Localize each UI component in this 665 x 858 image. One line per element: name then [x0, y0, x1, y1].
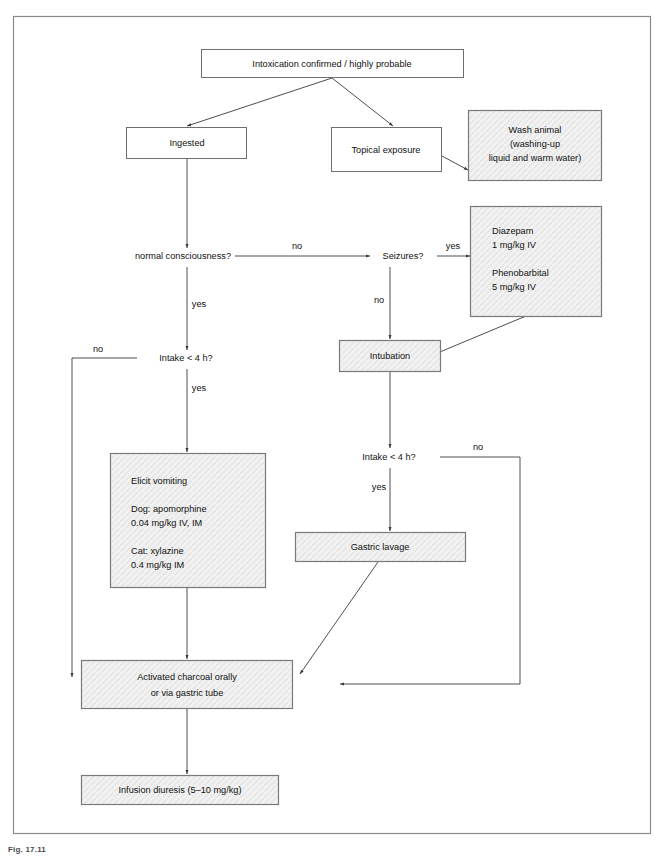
node-activated-charcoal[interactable]: Activated charcoal orally or via gastric…: [82, 661, 293, 709]
node-diazepam-line-1: Diazepam: [492, 226, 534, 236]
edge-label-intake-left-yes: yes: [192, 383, 207, 393]
flowchart-figure: Intoxication confirmed / highly probable…: [0, 0, 665, 858]
edge-label-consciousness-yes: yes: [192, 299, 207, 309]
node-ingested-label: Ingested: [169, 138, 204, 148]
node-elicit-vomiting[interactable]: Elicit vomiting Dog: apomorphine 0.04 mg…: [111, 454, 266, 588]
node-topical-exposure[interactable]: Topical exposure: [332, 128, 442, 172]
node-gastric-lavage-label: Gastric lavage: [351, 542, 410, 552]
edge-label-seizures-no: no: [374, 295, 384, 305]
node-diazepam-line-2: 1 mg/kg IV: [492, 240, 537, 250]
connector-intake-right-no-to-charcoal: [340, 457, 520, 684]
node-activated-charcoal-box: [82, 661, 293, 709]
edge-label-consciousness-no: no: [292, 241, 302, 251]
decision-normal-consciousness[interactable]: normal consciousness?: [135, 251, 231, 261]
edge-label-intake-left-no: no: [93, 344, 103, 354]
node-topical-exposure-label: Topical exposure: [352, 145, 421, 155]
node-wash-animal-line-3: liquid and warm water): [489, 153, 581, 163]
node-intubation-label: Intubation: [370, 351, 410, 361]
edge-label-intake-right-no: no: [473, 442, 483, 452]
connector-lavage-to-charcoal: [300, 562, 378, 674]
node-activated-charcoal-line-2: or via gastric tube: [151, 688, 224, 698]
node-elicit-vomiting-line-4: 0.04 mg/kg IV, IM: [131, 518, 202, 528]
node-elicit-vomiting-line-7: 0.4 mg/kg IM: [131, 560, 184, 570]
edge-label-seizures-yes: yes: [446, 241, 461, 251]
decision-seizures[interactable]: Seizures?: [383, 251, 424, 261]
node-intubation[interactable]: Intubation: [340, 341, 441, 372]
node-diazepam-line-5: 5 mg/kg IV: [492, 282, 537, 292]
node-diazepam-phenobarbital-box: [471, 207, 602, 317]
flowchart-svg: Intoxication confirmed / highly probable…: [0, 0, 665, 858]
node-gastric-lavage[interactable]: Gastric lavage: [296, 533, 466, 562]
node-intoxication-confirmed-label: Intoxication confirmed / highly probable: [252, 59, 411, 69]
connector-intoxication-to-ingested: [187, 78, 332, 126]
node-wash-animal[interactable]: Wash animal (washing-up liquid and warm …: [469, 111, 602, 181]
connector-topical-to-wash: [442, 156, 468, 170]
node-wash-animal-line-2: (washing-up: [510, 139, 560, 149]
node-ingested[interactable]: Ingested: [127, 128, 247, 159]
node-infusion-diuresis[interactable]: Infusion diuresis (5–10 mg/kg): [82, 776, 279, 805]
figure-caption: Fig. 17.11: [8, 845, 46, 854]
node-elicit-vomiting-line-3: Dog: apomorphine: [131, 504, 207, 514]
connector-intoxication-to-topical: [332, 78, 393, 126]
node-diazepam-line-4: Phenobarbital: [492, 268, 549, 278]
node-wash-animal-line-1: Wash animal: [509, 125, 562, 135]
node-activated-charcoal-line-1: Activated charcoal orally: [137, 672, 237, 682]
decision-intake-right[interactable]: Intake < 4 h?: [362, 452, 415, 462]
node-intoxication-confirmed[interactable]: Intoxication confirmed / highly probable: [202, 50, 464, 78]
node-elicit-vomiting-line-1: Elicit vomiting: [131, 476, 187, 486]
decision-intake-left[interactable]: Intake < 4 h?: [159, 353, 212, 363]
connector-diazepam-to-intubation: [435, 316, 526, 354]
node-infusion-diuresis-label: Infusion diuresis (5–10 mg/kg): [118, 785, 241, 795]
edge-label-intake-right-yes: yes: [372, 482, 387, 492]
node-diazepam-phenobarbital[interactable]: Diazepam 1 mg/kg IV Phenobarbital 5 mg/k…: [471, 207, 602, 317]
node-elicit-vomiting-line-6: Cat: xylazine: [131, 546, 184, 556]
